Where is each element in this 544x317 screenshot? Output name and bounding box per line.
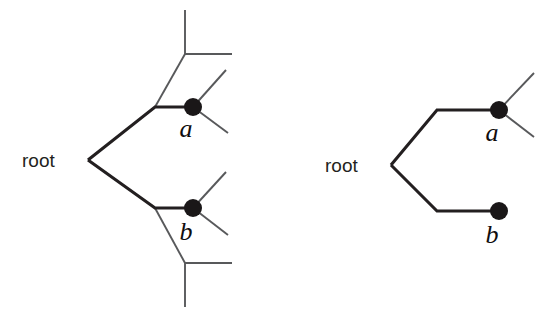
left-root-label: root — [22, 150, 55, 171]
right-node-a-label: a — [486, 118, 499, 147]
right-node-b-dot — [490, 202, 508, 220]
tree-diagram-svg: root a b root a b — [0, 0, 544, 317]
left-node-b-label: b — [180, 217, 193, 246]
left-node-a-label: a — [180, 114, 193, 143]
right-root-label: root — [325, 155, 358, 176]
background — [0, 0, 544, 317]
right-node-b-label: b — [486, 220, 499, 249]
figure-canvas: root a b root a b — [0, 0, 544, 317]
right-node-a-dot — [490, 101, 508, 119]
left-node-b-dot — [184, 199, 202, 217]
